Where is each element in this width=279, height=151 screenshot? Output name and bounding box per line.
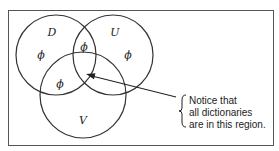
empty-set-mark: ϕ — [56, 78, 64, 91]
set-d-label: D — [47, 26, 57, 39]
annotation: Notice that all dictionaries are in this… — [86, 73, 266, 130]
empty-set-mark: ϕ — [124, 49, 132, 62]
set-u-label: U — [110, 26, 120, 39]
note-line-1: Notice that — [189, 95, 237, 106]
empty-set-mark: ϕ — [37, 49, 45, 62]
venn-diagram: DUV ϕϕϕϕ Notice that all dictionaries ar… — [0, 0, 279, 151]
set-v-label: V — [79, 114, 88, 127]
arrow-head-icon — [86, 73, 95, 79]
brace-icon — [179, 95, 186, 127]
empty-set-mark: ϕ — [80, 41, 88, 54]
note-line-2: all dictionaries — [189, 107, 252, 118]
diagram-canvas: DUV ϕϕϕϕ Notice that all dictionaries ar… — [0, 0, 279, 151]
note-line-3: are in this region. — [189, 119, 266, 130]
